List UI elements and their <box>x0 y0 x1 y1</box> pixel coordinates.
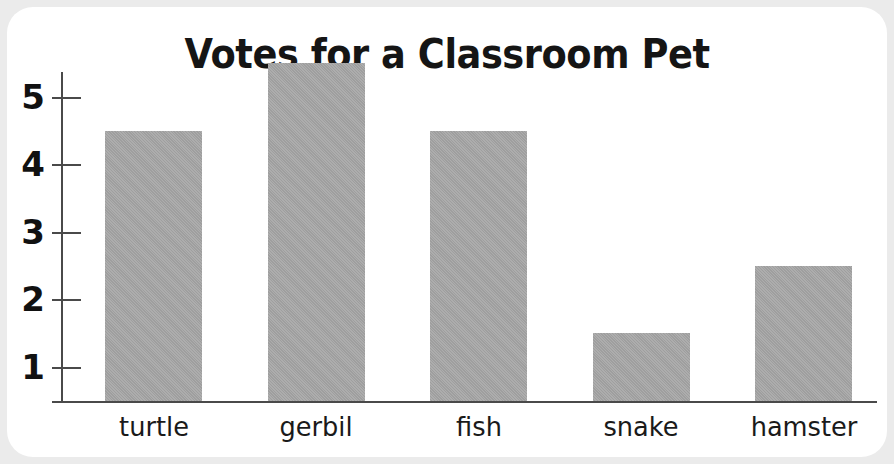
y-axis-label-5: 5 <box>7 80 45 114</box>
y-axis-label-2: 2 <box>7 282 45 316</box>
x-axis-label-turtle: turtle <box>68 411 239 443</box>
x-axis-label-fish: fish <box>393 411 564 443</box>
x-axis-label-snake: snake <box>556 411 727 443</box>
y-tick-2 <box>52 299 81 301</box>
x-axis-label-gerbil: gerbil <box>231 411 402 443</box>
y-axis-label-1: 1 <box>7 350 45 384</box>
y-axis-label-4: 4 <box>7 147 45 181</box>
plot-area: 1 2 3 4 5 turtle gerbil fish snake hamst… <box>7 7 887 457</box>
bar-gerbil <box>268 63 365 401</box>
y-tick-1 <box>52 367 81 369</box>
x-axis-line <box>52 401 877 403</box>
y-tick-4 <box>52 164 81 166</box>
x-axis-label-hamster: hamster <box>718 411 887 443</box>
y-axis-label-3: 3 <box>7 215 45 249</box>
y-axis-line <box>61 72 63 403</box>
bar-snake <box>593 333 690 401</box>
bar-fish <box>430 131 527 401</box>
chart-card: Votes for a Classroom Pet 1 2 3 4 5 turt… <box>7 7 887 457</box>
bar-turtle <box>105 131 202 401</box>
y-tick-5 <box>52 97 81 99</box>
y-tick-3 <box>52 232 81 234</box>
bar-hamster <box>755 266 852 401</box>
